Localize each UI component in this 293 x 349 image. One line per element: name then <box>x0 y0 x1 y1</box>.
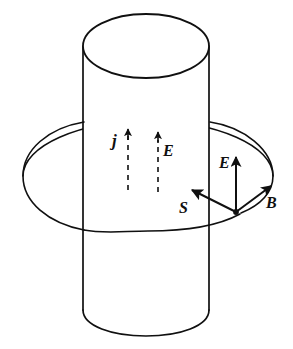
label-poynting-S: S <box>179 200 188 216</box>
label-magnetic-field-B: B <box>266 195 277 211</box>
label-interior-field-E: E <box>163 143 174 159</box>
physics-figure: j E E S B <box>0 0 293 349</box>
cylinder-top-ellipse <box>83 14 209 78</box>
field-loop-left-arc <box>23 122 84 230</box>
cylinder-body-fill <box>83 46 209 336</box>
triad-origin-node <box>233 209 239 215</box>
figure-canvas <box>0 0 293 349</box>
label-current-density-j: j <box>112 132 117 149</box>
label-surface-field-E: E <box>219 155 230 171</box>
